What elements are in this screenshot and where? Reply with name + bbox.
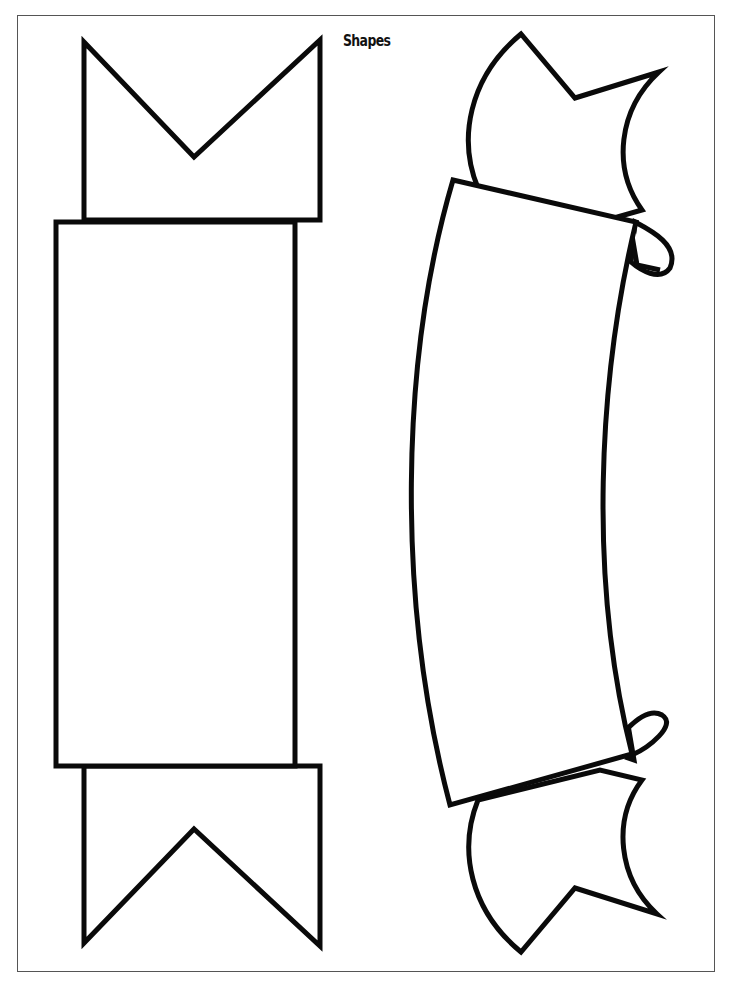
ribbon-bottom-tail xyxy=(84,766,320,946)
ribbon-top-tail xyxy=(84,40,320,220)
shapes-canvas xyxy=(0,0,734,988)
scroll-bottom-flag xyxy=(469,770,657,952)
curved-scroll-banner xyxy=(411,34,672,952)
straight-ribbon-banner xyxy=(56,40,320,946)
scroll-curved-panel xyxy=(411,180,636,805)
ribbon-center-panel xyxy=(56,222,295,766)
